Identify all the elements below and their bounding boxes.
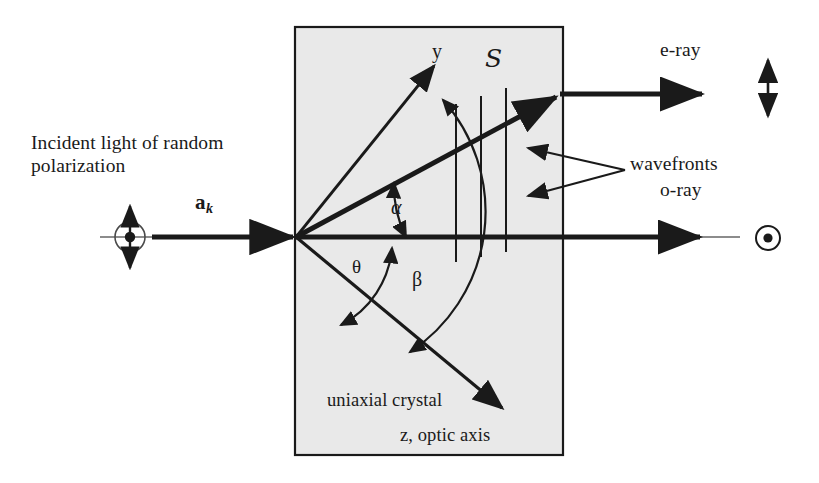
- physics-diagram: Incident light of random polarization ak…: [0, 0, 819, 483]
- o-ray-polarization-marker: [756, 226, 780, 250]
- angle-theta-label: θ: [352, 256, 361, 278]
- wave-vector-symbol: a: [195, 190, 206, 214]
- optic-axis-label: z, optic axis: [400, 425, 490, 447]
- e-ray-label: e-ray: [660, 38, 701, 61]
- wavefronts-label: wavefronts: [630, 152, 718, 175]
- angle-beta-label: β: [412, 268, 422, 292]
- y-axis-label: y: [432, 40, 442, 64]
- wave-vector-subscript: k: [206, 201, 213, 216]
- uniaxial-crystal-label: uniaxial crystal: [327, 390, 442, 412]
- incident-light-label: Incident light of random polarization: [31, 131, 281, 177]
- wave-vector-label: ak: [195, 190, 213, 218]
- angle-alpha-label: α: [391, 196, 402, 220]
- o-ray-label: o-ray: [660, 178, 702, 201]
- poynting-vector-label: S: [485, 44, 502, 74]
